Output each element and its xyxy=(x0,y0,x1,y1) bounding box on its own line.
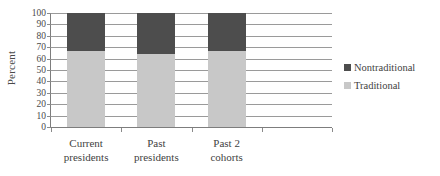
x-category-label-line: Past 2 xyxy=(213,137,240,149)
bar-group[interactable] xyxy=(208,13,246,127)
y-tick-label: 90 xyxy=(20,19,46,29)
y-tick-label: 50 xyxy=(20,65,46,75)
bar-segment-traditional[interactable] xyxy=(137,54,175,127)
y-tick-mark xyxy=(47,81,51,82)
y-tick-label: 0 xyxy=(20,122,46,132)
y-axis-title: Percent xyxy=(0,0,22,135)
y-tick-mark xyxy=(47,47,51,48)
plot-area xyxy=(51,13,332,127)
y-tick-label: 60 xyxy=(20,54,46,64)
y-tick-label: 10 xyxy=(20,111,46,121)
legend-item-label: Traditional xyxy=(354,80,400,92)
y-tick-mark xyxy=(47,104,51,105)
bar-segment-nontraditional[interactable] xyxy=(67,13,105,51)
bar-segment-nontraditional[interactable] xyxy=(137,13,175,54)
bar-group[interactable] xyxy=(67,13,105,127)
y-tick-mark xyxy=(47,93,51,94)
y-tick-mark xyxy=(47,36,51,37)
y-tick-mark xyxy=(47,59,51,60)
y-tick-label: 70 xyxy=(20,42,46,52)
bars-layer xyxy=(51,13,332,127)
x-tick-mark xyxy=(192,128,193,132)
y-tick-mark xyxy=(47,70,51,71)
x-tick-mark xyxy=(121,128,122,132)
y-tick-label: 40 xyxy=(20,76,46,86)
x-tick-mark xyxy=(51,128,52,132)
y-tick-label: 80 xyxy=(20,31,46,41)
bar-segment-traditional[interactable] xyxy=(208,51,246,127)
x-category-label-line: cohorts xyxy=(182,150,272,164)
y-tick-mark xyxy=(47,127,51,128)
x-category-label-line: Current xyxy=(69,137,103,149)
chart-legend: NontraditionalTraditional xyxy=(344,60,440,96)
x-category-label-line: Past xyxy=(147,137,165,149)
y-axis-title-label: Percent xyxy=(5,50,17,84)
legend-swatch-icon xyxy=(344,64,351,71)
y-tick-mark xyxy=(47,13,51,14)
x-tick-mark xyxy=(262,128,263,132)
y-tick-label: 100 xyxy=(20,8,46,18)
x-category-label: Past 2cohorts xyxy=(182,136,272,164)
legend-swatch-icon xyxy=(344,82,351,89)
y-tick-label: 30 xyxy=(20,88,46,98)
x-tick-mark xyxy=(332,128,333,132)
legend-item[interactable]: Traditional xyxy=(344,78,440,93)
legend-item-label: Nontraditional xyxy=(354,62,415,74)
y-tick-mark xyxy=(47,116,51,117)
stacked-bar-chart: Percent 1009080706050403020100 Currentpr… xyxy=(0,0,440,176)
bar-group[interactable] xyxy=(137,13,175,127)
y-tick-label: 20 xyxy=(20,99,46,109)
y-axis-tick-labels: 1009080706050403020100 xyxy=(20,8,46,128)
bar-segment-traditional[interactable] xyxy=(67,51,105,127)
bar-segment-nontraditional[interactable] xyxy=(208,13,246,51)
y-tick-mark xyxy=(47,24,51,25)
legend-item[interactable]: Nontraditional xyxy=(344,60,440,75)
